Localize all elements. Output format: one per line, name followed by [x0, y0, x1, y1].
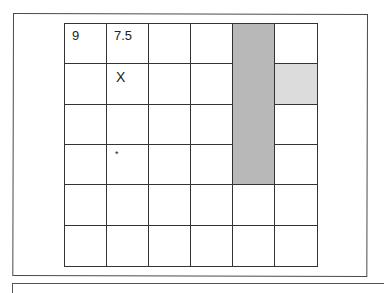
- grid-cell-r5-c5[interactable]: [233, 185, 275, 225]
- grid-cell-r1-c3[interactable]: [149, 24, 191, 64]
- grid-cell-r6-c4[interactable]: [191, 226, 233, 266]
- grid-cell-r4-c5[interactable]: [233, 145, 275, 185]
- grid-cell-r6-c3[interactable]: [149, 226, 191, 266]
- grid-cell-r2-c1[interactable]: [65, 64, 107, 104]
- grid-cell-r1-c5[interactable]: [233, 24, 275, 64]
- cell-value: 9: [72, 28, 79, 43]
- x-mark-icon: X: [116, 69, 125, 85]
- grid-cell-r6-c2[interactable]: [107, 226, 149, 266]
- grid-cell-r3-c4[interactable]: [191, 105, 233, 145]
- grid-cell-r6-c1[interactable]: [65, 226, 107, 266]
- grid-cell-r1-c2[interactable]: 7.5: [107, 24, 149, 64]
- grid-cell-r2-c4[interactable]: [191, 64, 233, 104]
- grid-cell-r5-c4[interactable]: [191, 185, 233, 225]
- grid-cell-r3-c2[interactable]: [107, 105, 149, 145]
- game-grid: 97.5X*: [64, 23, 318, 267]
- grid-cell-r5-c2[interactable]: [107, 185, 149, 225]
- grid-cell-r4-c4[interactable]: [191, 145, 233, 185]
- grid-cell-r1-c6[interactable]: [275, 24, 317, 64]
- grid-cell-r2-c5[interactable]: [233, 64, 275, 104]
- grid-cell-r6-c5[interactable]: [233, 226, 275, 266]
- grid-cell-r3-c5[interactable]: [233, 105, 275, 145]
- grid-cell-r3-c6[interactable]: [275, 105, 317, 145]
- cell-value: 7.5: [114, 28, 132, 43]
- star-icon: *: [115, 149, 119, 159]
- grid-cell-r4-c1[interactable]: [65, 145, 107, 185]
- grid-cell-r2-c6[interactable]: [275, 64, 317, 104]
- grid-cell-r2-c3[interactable]: [149, 64, 191, 104]
- grid-cell-r4-c2[interactable]: *: [107, 145, 149, 185]
- grid-cell-r1-c4[interactable]: [191, 24, 233, 64]
- grid-cell-r5-c6[interactable]: [275, 185, 317, 225]
- grid-cell-r2-c2[interactable]: X: [107, 64, 149, 104]
- grid-cell-r3-c1[interactable]: [65, 105, 107, 145]
- lower-panel: [12, 283, 384, 293]
- grid-cell-r3-c3[interactable]: [149, 105, 191, 145]
- grid-cell-r4-c6[interactable]: [275, 145, 317, 185]
- grid-cell-r5-c1[interactable]: [65, 185, 107, 225]
- grid-cell-r5-c3[interactable]: [149, 185, 191, 225]
- grid-cell-r4-c3[interactable]: [149, 145, 191, 185]
- grid-cell-r6-c6[interactable]: [275, 226, 317, 266]
- grid-cell-r1-c1[interactable]: 9: [65, 24, 107, 64]
